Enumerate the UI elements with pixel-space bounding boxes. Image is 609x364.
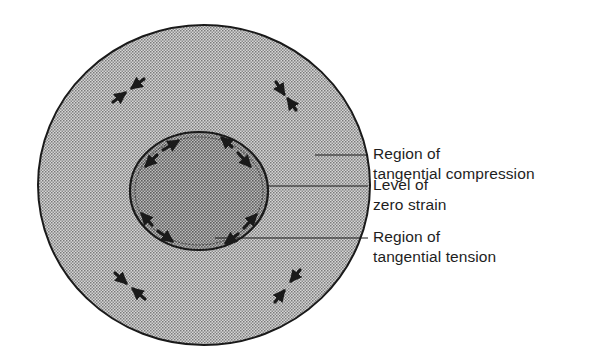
label-zero-strain: Level of zero strain — [373, 175, 446, 215]
label-compression-line1: Region of — [373, 144, 535, 164]
label-zero-strain-line1: Level of — [373, 175, 446, 195]
inner-region — [130, 132, 268, 250]
label-tension-line2: tangential tension — [373, 247, 496, 267]
label-tension: Region of tangential tension — [373, 227, 496, 267]
label-tension-line1: Region of — [373, 227, 496, 247]
label-zero-strain-line2: zero strain — [373, 195, 446, 215]
